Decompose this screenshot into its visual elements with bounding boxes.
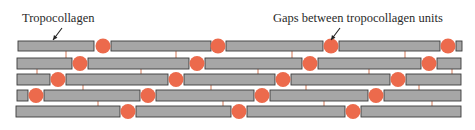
tropocollagen-molecule	[247, 106, 345, 117]
gap-region	[369, 88, 384, 103]
tropocollagen-molecule	[111, 41, 211, 51]
gap-region	[190, 56, 205, 71]
tropocollagen-molecule	[339, 41, 440, 51]
tropocollagen-molecule	[17, 74, 50, 85]
gap-region	[422, 56, 437, 71]
tropocollagen-molecule	[226, 41, 323, 51]
gap-region	[141, 88, 156, 103]
gap-region	[51, 72, 66, 87]
label-gaps: Gaps between tropocollagen units	[273, 11, 443, 25]
gap-region	[303, 56, 318, 71]
tropocollagen-molecule	[17, 90, 28, 101]
gap-region	[255, 88, 270, 103]
gap-region	[211, 39, 226, 54]
gap-region	[121, 104, 136, 119]
annotations: Tropocollagen Gaps between tropocollagen…	[22, 11, 443, 40]
tropocollagen-molecule	[270, 90, 368, 101]
tropocollagen-molecule	[361, 106, 461, 117]
tropocollagen-molecule	[44, 90, 140, 101]
tropocollagen-molecule	[16, 106, 120, 117]
gap-region	[96, 39, 111, 54]
gap-region	[346, 104, 361, 119]
tropocollagen-molecule	[88, 58, 189, 69]
gap-region	[29, 88, 44, 103]
tropocollagen-molecule	[291, 74, 390, 85]
tropocollagen-molecule	[318, 58, 421, 69]
tropocollagen-molecule	[156, 90, 254, 101]
label-tropocollagen: Tropocollagen	[22, 11, 95, 25]
gap-region	[276, 72, 291, 87]
gap-region	[169, 72, 184, 87]
collagen-fibril-diagram: Tropocollagen Gaps between tropocollagen…	[0, 0, 475, 130]
tropocollagen-molecule	[136, 106, 231, 117]
tropocollagen-molecule	[66, 74, 168, 85]
tropocollagen-molecule	[184, 74, 275, 85]
tropocollagen-molecule	[437, 58, 461, 69]
gap-region	[232, 104, 247, 119]
tropocollagen-molecule	[406, 74, 461, 85]
tropocollagen-molecule	[18, 41, 94, 51]
gap-region	[441, 39, 456, 54]
gap-region	[391, 72, 406, 87]
tropocollagen-molecule	[17, 58, 72, 69]
gap-region	[73, 56, 88, 71]
tropocollagen-molecule	[384, 90, 461, 101]
tropocollagen-molecule	[456, 41, 462, 51]
gap-region	[324, 39, 339, 54]
tropocollagen-molecule	[205, 58, 302, 69]
